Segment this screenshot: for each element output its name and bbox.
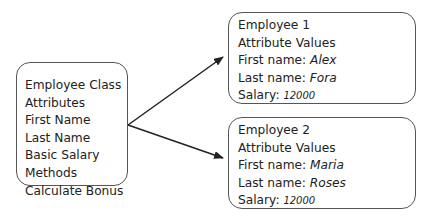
- last-name-value: Roses: [310, 176, 346, 190]
- attribute-values-heading: Attribute Values: [238, 35, 415, 53]
- attribute-first-name: First Name: [25, 112, 127, 130]
- last-name-label: Last name:: [238, 176, 310, 190]
- attribute-basic-salary: Basic Salary: [25, 147, 127, 165]
- first-name-label: First name:: [238, 158, 310, 172]
- employee-title: Employee 2: [238, 122, 415, 140]
- salary-value: 12000: [283, 90, 315, 101]
- employee-class-box: Employee Class Attributes First Name Las…: [16, 62, 128, 186]
- employee-2-box: Employee 2 Attribute Values First name: …: [228, 117, 416, 209]
- attribute-values-heading: Attribute Values: [238, 140, 415, 158]
- class-title: Employee Class: [25, 77, 127, 95]
- salary-value: 12000: [283, 195, 315, 206]
- last-name-value: Fora: [310, 71, 337, 85]
- first-name-label: First name:: [238, 53, 310, 67]
- salary-label: Salary:: [238, 88, 283, 102]
- last-name-row: Last name: Roses: [238, 175, 415, 193]
- arrow-to-employee-2: [128, 125, 223, 158]
- first-name-value: Alex: [310, 53, 336, 67]
- method-calculate-bonus: Calculate Bonus: [25, 183, 127, 201]
- attribute-last-name: Last Name: [25, 130, 127, 148]
- first-name-value: Maria: [310, 158, 344, 172]
- methods-heading: Methods: [25, 165, 127, 183]
- last-name-row: Last name: Fora: [238, 70, 415, 88]
- salary-row: Salary: 12000: [238, 192, 415, 210]
- first-name-row: First name: Alex: [238, 52, 415, 70]
- attributes-heading: Attributes: [25, 95, 127, 113]
- salary-label: Salary:: [238, 193, 283, 207]
- salary-row: Salary: 12000: [238, 87, 415, 105]
- employee-1-box: Employee 1 Attribute Values First name: …: [228, 12, 416, 104]
- employee-title: Employee 1: [238, 17, 415, 35]
- first-name-row: First name: Maria: [238, 157, 415, 175]
- last-name-label: Last name:: [238, 71, 310, 85]
- arrow-to-employee-1: [128, 57, 223, 125]
